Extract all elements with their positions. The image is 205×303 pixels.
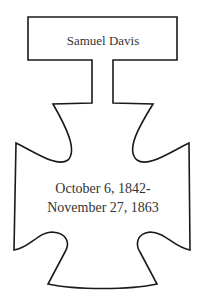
date-line-2: November 27, 1863 [20,198,186,217]
date-line-1: October 6, 1842- [20,179,186,198]
nameplate-name: Samuel Davis [28,33,178,49]
cross-dates: October 6, 1842- November 27, 1863 [20,179,186,217]
medal-shape [14,17,190,289]
